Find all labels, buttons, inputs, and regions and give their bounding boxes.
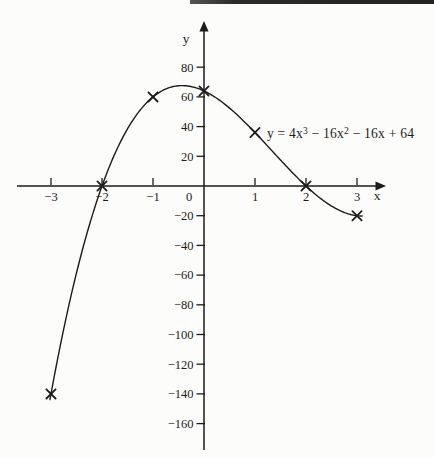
x-axis-tick-label: 0 xyxy=(186,190,192,204)
x-axis-tick-label: −1 xyxy=(146,190,159,204)
x-axis-tick-label: −2 xyxy=(95,190,108,204)
equation-part: − 16x xyxy=(308,126,344,141)
x-axis-tick-label: 2 xyxy=(303,190,309,204)
y-axis-title: y xyxy=(183,31,190,46)
y-axis-tick-label: −20 xyxy=(174,209,194,223)
y-axis-arrow xyxy=(199,21,208,32)
y-axis-tick-label: 80 xyxy=(181,61,194,75)
equation-superscript: 2 xyxy=(344,126,349,136)
equation-part: − 16x + 64 xyxy=(349,126,414,141)
equation-part: y = 4x xyxy=(267,126,303,141)
y-axis-tick-label: −40 xyxy=(174,239,194,253)
y-axis-tick-label: −100 xyxy=(168,328,194,342)
equation-superscript: 3 xyxy=(303,126,308,136)
x-axis-title: x xyxy=(374,188,381,203)
y-axis-tick-label: −80 xyxy=(174,298,194,312)
equation-label: y = 4x3 − 16x2 − 16x + 64 xyxy=(267,126,414,142)
generated-plot-layer: −3−2−1012380604020−20−40−60−80−100−120−1… xyxy=(17,21,386,450)
graph-svg: −3−2−1012380604020−20−40−60−80−100−120−1… xyxy=(0,0,434,458)
x-axis-tick-label: 1 xyxy=(252,190,258,204)
y-axis-tick-label: −140 xyxy=(168,387,194,401)
y-axis-tick-label: 20 xyxy=(181,150,194,164)
y-axis-tick-label: −60 xyxy=(174,268,194,282)
x-axis-tick-label: 3 xyxy=(354,190,360,204)
y-axis-tick-label: 60 xyxy=(181,90,194,104)
x-axis-tick-label: −3 xyxy=(44,190,57,204)
plot-page: −3−2−1012380604020−20−40−60−80−100−120−1… xyxy=(0,0,434,458)
y-axis-tick-label: −160 xyxy=(168,417,194,431)
y-axis-tick-label: −120 xyxy=(168,358,194,372)
y-axis-tick-label: 40 xyxy=(181,120,194,134)
